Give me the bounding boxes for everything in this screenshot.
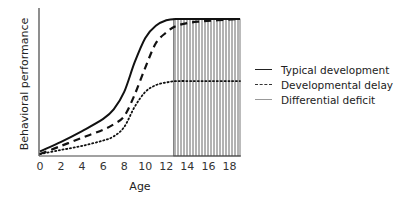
differential-region	[174, 19, 240, 156]
legend-label: Developmental delay	[281, 79, 393, 91]
legend-label: Differential deficit	[281, 94, 375, 106]
thin-line-icon	[255, 99, 272, 100]
y-axis-label: Behavioral performance	[18, 17, 31, 150]
legend: Typical development Developmental delay …	[255, 62, 393, 107]
legend-item-deficit: Differential deficit	[255, 92, 393, 107]
x-tick-label: 10	[138, 160, 152, 173]
legend-item-typical: Typical development	[255, 62, 393, 77]
solid-line-icon	[255, 69, 272, 70]
x-tick-label: 4	[79, 160, 86, 173]
x-tick-label: 14	[180, 160, 194, 173]
x-axis-label: Age	[129, 180, 151, 193]
x-tick-label: 12	[159, 160, 173, 173]
x-tick-label: 18	[222, 160, 236, 173]
x-tick-label: 2	[58, 160, 65, 173]
x-tick-labels: 024681012141618	[37, 160, 237, 173]
dashed-line-icon	[255, 84, 272, 85]
x-tick-label: 6	[100, 160, 107, 173]
hatched-region	[174, 19, 240, 156]
legend-label: Typical development	[281, 64, 389, 76]
x-tick-label: 8	[121, 160, 128, 173]
x-tick-label: 16	[201, 160, 215, 173]
legend-item-delay: Developmental delay	[255, 77, 393, 92]
x-tick-label: 0	[37, 160, 44, 173]
